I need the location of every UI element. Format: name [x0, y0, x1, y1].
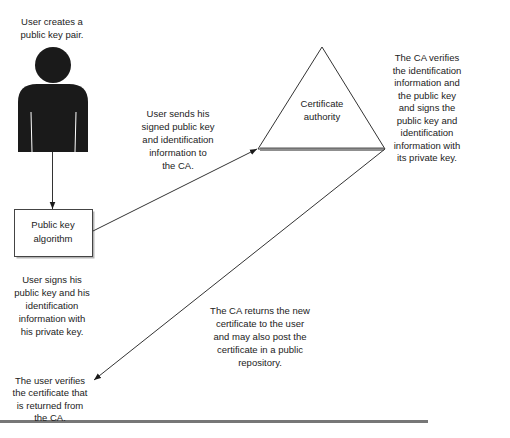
label-line: Public key: [13, 218, 93, 232]
annotation-line: certificate to the user: [200, 317, 320, 330]
annotation-line: the CA.: [0, 412, 100, 424]
label-line: Certificate: [282, 97, 362, 110]
user-verifies-annotation: The user verifies the certificate that i…: [0, 375, 100, 425]
annotation-line: is returned from: [0, 400, 100, 412]
label-line: algorithm: [13, 232, 93, 246]
annotation-line: The CA returns the new: [200, 304, 320, 317]
annotation-line: The user verifies: [0, 375, 100, 387]
annotation-line: the CA.: [128, 159, 228, 172]
caption-line: public key pair.: [2, 29, 102, 42]
annotation-line: User signs his: [2, 273, 102, 286]
annotation-line: repository.: [200, 356, 320, 369]
annotation-line: public key and: [377, 115, 477, 128]
annotation-line: its private key.: [377, 152, 477, 165]
annotation-line: public key and his: [2, 286, 102, 299]
user-signs-annotation: User signs his public key and his identi…: [2, 273, 102, 338]
ca-verifies-annotation: The CA verifies the identification infor…: [377, 52, 477, 165]
label-line: authority: [282, 110, 362, 123]
caption-line: User creates a: [2, 16, 102, 29]
annotation-line: and may also post the: [200, 330, 320, 343]
algorithm-box-label: Public key algorithm: [13, 218, 93, 246]
ca-returns-annotation: The CA returns the new certificate to th…: [200, 304, 320, 369]
user-caption: User creates a public key pair.: [2, 16, 102, 42]
ca-label: Certificate authority: [282, 97, 362, 123]
annotation-line: his private key.: [2, 325, 102, 338]
annotation-line: and identification: [128, 133, 228, 146]
annotation-line: information with: [2, 312, 102, 325]
person-icon: [18, 47, 88, 152]
annotation-line: The CA verifies: [377, 52, 477, 65]
annotation-line: the identification: [377, 65, 477, 78]
user-sends-annotation: User sends his signed public key and ide…: [128, 107, 228, 172]
annotation-line: signed public key: [128, 120, 228, 133]
annotation-line: information and: [377, 77, 477, 90]
annotation-line: information with: [377, 140, 477, 153]
annotation-line: information to: [128, 146, 228, 159]
annotation-line: identification: [377, 127, 477, 140]
annotation-line: certificate in a public: [200, 343, 320, 356]
annotation-line: identification: [2, 299, 102, 312]
annotation-line: User sends his: [128, 107, 228, 120]
annotation-line: the public key: [377, 90, 477, 103]
annotation-line: and signs the: [377, 102, 477, 115]
annotation-line: the certificate that: [0, 387, 100, 399]
